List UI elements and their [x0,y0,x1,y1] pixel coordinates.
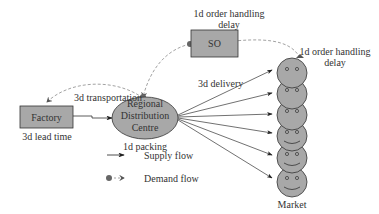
legend-demand-dot-icon [106,175,112,181]
demand-flow-so-to-rdc [143,44,190,97]
factory-label: Factory [20,112,73,123]
market-delay-label-line1: 1d order handling [290,46,379,57]
supply-flow-factory-to-rdc [73,116,112,118]
legend-supply-label: Supply flow [144,150,193,161]
rdc-label-line3: Centre [112,122,178,133]
factory-lead-time-label: 3d lead time [14,131,80,142]
so-delay-label-line2: delay [184,19,274,30]
rdc-label-line2: Distribution [112,110,178,121]
market-customers [277,58,307,197]
so-label: SO [191,38,238,49]
so-delay-label-line1: 1d order handling [184,8,274,19]
transportation-label: 3d transportation [74,92,142,103]
market-label: Market [267,199,317,210]
delivery-label: 3d delivery [198,78,243,89]
legend-demand-label: Demand flow [144,173,199,184]
market-delay-label-line2: delay [290,57,379,68]
supply-chain-diagram: Factory 3d lead time Regional Distributi… [0,0,379,214]
